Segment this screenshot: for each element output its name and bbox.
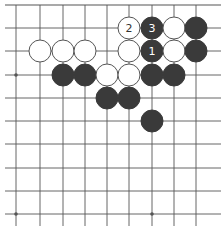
black-stone[interactable]	[52, 64, 74, 86]
black-stone-disc	[163, 64, 185, 86]
white-stone-disc	[118, 40, 140, 62]
white-stone[interactable]	[74, 40, 96, 62]
white-stone[interactable]	[118, 64, 140, 86]
stones-layer: 231	[29, 17, 207, 132]
black-stone[interactable]	[96, 87, 118, 109]
board-grid	[5, 5, 221, 226]
white-stone-disc	[29, 40, 51, 62]
black-stone[interactable]	[74, 64, 96, 86]
white-stone-disc	[163, 40, 185, 62]
black-stone[interactable]: 3	[141, 17, 163, 39]
go-board[interactable]: 231	[0, 0, 221, 231]
star-point	[14, 73, 18, 77]
black-stone-disc	[185, 17, 207, 39]
black-stone-disc	[141, 64, 163, 86]
white-stone[interactable]	[163, 17, 185, 39]
star-point	[150, 212, 154, 216]
black-stone[interactable]: 1	[141, 40, 163, 62]
black-stone-disc	[185, 40, 207, 62]
black-stone-disc	[96, 87, 118, 109]
white-stone-disc	[74, 40, 96, 62]
white-stone[interactable]	[96, 64, 118, 86]
black-stone[interactable]	[185, 17, 207, 39]
black-stone[interactable]	[141, 110, 163, 132]
black-stone[interactable]	[185, 40, 207, 62]
black-stone-disc	[141, 110, 163, 132]
move-number-label: 2	[126, 22, 133, 35]
star-point	[14, 212, 18, 216]
white-stone[interactable]	[163, 40, 185, 62]
white-stone[interactable]	[118, 40, 140, 62]
white-stone-disc	[52, 40, 74, 62]
black-stone[interactable]	[163, 64, 185, 86]
white-stone[interactable]	[29, 40, 51, 62]
white-stone-disc	[96, 64, 118, 86]
move-number-label: 1	[149, 45, 156, 58]
white-stone[interactable]: 2	[118, 17, 140, 39]
move-number-label: 3	[149, 22, 156, 35]
white-stone-disc	[163, 17, 185, 39]
black-stone-disc	[52, 64, 74, 86]
black-stone-disc	[74, 64, 96, 86]
white-stone-disc	[118, 64, 140, 86]
black-stone[interactable]	[141, 64, 163, 86]
black-stone-disc	[118, 87, 140, 109]
black-stone[interactable]	[118, 87, 140, 109]
white-stone[interactable]	[52, 40, 74, 62]
